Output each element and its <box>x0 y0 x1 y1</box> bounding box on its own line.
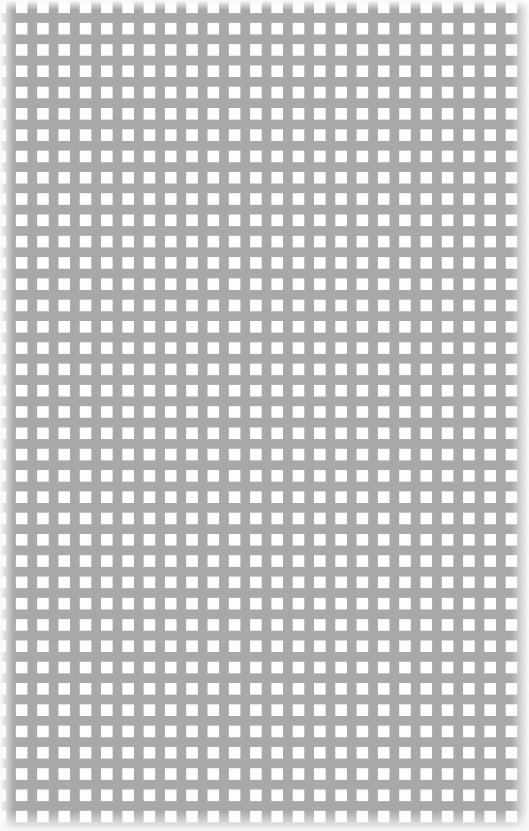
top-sheen <box>0 0 529 10</box>
plus-mark-grid <box>0 0 529 831</box>
cross-grid-canvas[interactable] <box>0 0 529 831</box>
page-edge-shading <box>0 0 529 831</box>
